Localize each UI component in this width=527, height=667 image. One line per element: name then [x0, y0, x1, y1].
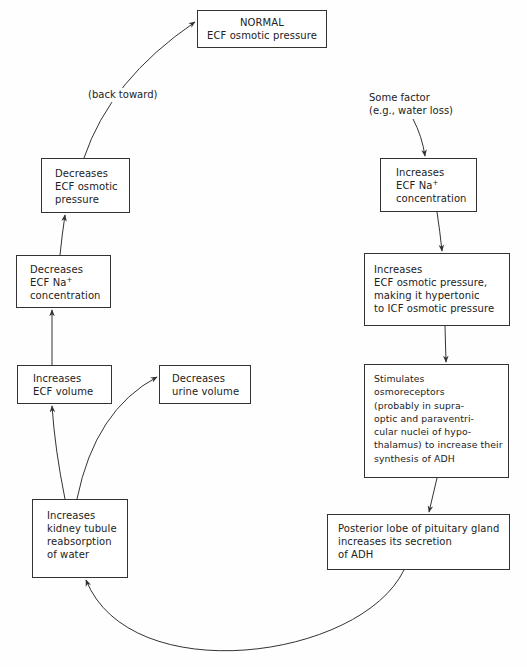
node-text: increases its secretion: [338, 535, 509, 548]
node-increases-ecf-na: Increases ECF Na+ concentration: [380, 158, 477, 212]
node-text: (e.g., water loss): [369, 104, 453, 117]
node-text: Increases: [47, 509, 127, 522]
node-text: Stimulates: [374, 372, 508, 385]
edge-label-back-toward: (back toward): [88, 88, 157, 101]
node-text: ECF osmotic pressure: [198, 29, 326, 42]
node-normal-ecf-osmotic-pressure: NORMAL ECF osmotic pressure: [197, 10, 327, 48]
node-text: concentration: [396, 192, 476, 205]
node-text: cular nuclei of hypo-: [374, 425, 508, 438]
node-text: urine volume: [172, 385, 250, 398]
node-text: Decreases: [30, 263, 110, 276]
node-decreases-urine-volume: Decreases urine volume: [159, 365, 251, 404]
superscript-plus: +: [66, 276, 72, 284]
arrow-trigger-to-na: [413, 119, 425, 156]
node-text: osmoreceptors: [374, 385, 508, 398]
node-text: thalamus) to increase their: [374, 438, 508, 451]
node-text: ECF Na: [396, 180, 432, 191]
node-text: Posterior lobe of pituitary gland: [338, 522, 509, 535]
node-increases-ecf-osmotic-pressure: Increases ECF osmotic pressure, making i…: [364, 253, 510, 326]
node-text: optic and paraventri-: [374, 412, 508, 425]
node-text: ECF osmotic: [55, 180, 129, 193]
node-text: (probably in supra-: [374, 399, 508, 412]
node-text: Decreases: [172, 372, 250, 385]
arrow-osm-to-stim: [445, 326, 446, 362]
arrow-decna-to-decosm: [60, 215, 65, 255]
arrow-kidney-to-ecfvol: [52, 406, 65, 499]
node-decreases-ecf-osmotic-pressure: Decreases ECF osmotic pressure: [41, 158, 130, 213]
node-kidney-reabsorption: Increases kidney tubule reabsorption of …: [32, 499, 128, 578]
node-text: Decreases: [55, 167, 129, 180]
node-text: pressure: [55, 193, 129, 206]
arrow-stim-to-pituitary: [429, 478, 437, 512]
node-posterior-pituitary: Posterior lobe of pituitary gland increa…: [327, 514, 510, 570]
adh-feedback-diagram: (back toward) NORMAL ECF osmotic pressur…: [0, 0, 527, 667]
node-text: NORMAL: [198, 16, 326, 29]
arrow-pituitary-to-kidney: [86, 570, 404, 651]
node-stimulates-osmoreceptors: Stimulates osmoreceptors (probably in su…: [364, 364, 509, 478]
node-text: Increases: [374, 263, 509, 276]
node-trigger-some-factor: Some factor (e.g., water loss): [369, 91, 453, 117]
node-text: Some factor: [369, 91, 453, 104]
node-text: making it hypertonic: [374, 289, 509, 302]
node-text: Increases: [33, 372, 111, 385]
node-text: ECF volume: [33, 385, 111, 398]
node-text: kidney tubule: [47, 522, 127, 535]
node-text: synthesis of ADH: [374, 452, 508, 465]
node-increases-ecf-volume: Increases ECF volume: [17, 365, 112, 404]
node-text: of water: [47, 548, 127, 561]
node-text: ECF Na: [30, 277, 66, 288]
arrow-na-to-osm: [437, 212, 442, 251]
node-decreases-ecf-na: Decreases ECF Na+ concentration: [16, 255, 111, 308]
node-text: reabsorption: [47, 535, 127, 548]
node-text: ECF osmotic pressure,: [374, 276, 509, 289]
superscript-plus: +: [432, 179, 438, 187]
node-text: of ADH: [338, 548, 509, 561]
node-text: to ICF osmotic pressure: [374, 302, 509, 315]
node-text: Increases: [396, 166, 476, 179]
node-text: concentration: [30, 289, 110, 302]
